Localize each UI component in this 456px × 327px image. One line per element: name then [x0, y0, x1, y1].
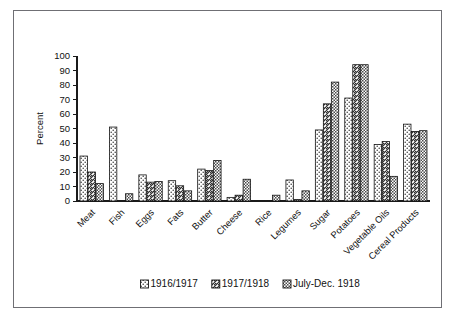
bar: [273, 195, 280, 201]
bar: [353, 65, 360, 201]
bar: [88, 172, 95, 201]
bar: [323, 104, 330, 201]
legend-item[interactable]: July-Dec. 1918: [283, 278, 360, 289]
chart-plot-area: 0102030405060708090100 Percent MeatFishE…: [14, 11, 441, 307]
bar: [125, 194, 132, 201]
legend-item[interactable]: 1916/1917: [141, 278, 199, 289]
x-tick-label: Eggs: [134, 207, 156, 229]
x-tick-label: Fish: [107, 207, 127, 227]
bar: [361, 65, 368, 201]
x-tick-label: Meat: [75, 207, 97, 229]
x-tick-label: Fats: [166, 207, 186, 227]
y-tick-label: 40: [59, 137, 70, 148]
bar: [294, 200, 301, 201]
x-tick-label: Cheese: [214, 207, 244, 237]
bar: [206, 171, 213, 201]
y-tick-label: 80: [59, 79, 70, 90]
chart-legend: 1916/19171917/1918July-Dec. 1918: [141, 278, 361, 289]
bar: [155, 181, 162, 201]
bar: [168, 181, 175, 201]
bar: [235, 195, 242, 201]
x-tick-label: Legumes: [269, 207, 303, 241]
bar: [96, 184, 103, 201]
y-axis: 0102030405060708090100: [54, 50, 77, 206]
bar: [412, 131, 419, 201]
legend-swatch: [283, 280, 291, 288]
bar: [139, 175, 146, 201]
legend-label: 1916/1917: [151, 278, 199, 289]
bar: [404, 124, 411, 201]
y-tick-label: 10: [59, 181, 70, 192]
x-tick-label: Sugar: [308, 207, 333, 232]
bar: [227, 197, 234, 201]
figure-frame: 0102030405060708090100 Percent MeatFishE…: [13, 10, 442, 308]
legend-label: July-Dec. 1918: [293, 278, 360, 289]
y-tick-label: 90: [59, 65, 70, 76]
bar: [176, 186, 183, 201]
x-tick-label: Rice: [253, 207, 273, 227]
x-tick-label: Butter: [190, 207, 215, 232]
y-tick-label: 20: [59, 166, 70, 177]
bar: [390, 176, 397, 201]
y-tick-label: 60: [59, 108, 70, 119]
bar: [243, 179, 250, 201]
bar: [382, 142, 389, 201]
bar: [109, 127, 116, 201]
legend-label: 1917/1918: [222, 278, 270, 289]
bar: [80, 156, 87, 201]
y-axis-label: Percent: [34, 112, 45, 145]
bar: [345, 98, 352, 201]
bar: [302, 191, 309, 201]
x-tick-label: Cereal Products: [366, 207, 420, 261]
bar-chart: 0102030405060708090100 Percent MeatFishE…: [14, 11, 441, 307]
bar: [374, 144, 381, 201]
y-tick-label: 100: [54, 50, 70, 61]
legend-swatch: [212, 280, 220, 288]
legend-swatch: [141, 280, 149, 288]
bars-layer: [80, 65, 427, 201]
bar: [214, 160, 221, 201]
bar: [315, 130, 322, 201]
bar: [147, 182, 154, 201]
bar: [198, 169, 205, 201]
y-axis-title: Percent: [34, 112, 45, 145]
y-tick-label: 50: [59, 123, 70, 134]
y-tick-label: 30: [59, 152, 70, 163]
bar: [420, 131, 427, 201]
bar: [331, 82, 338, 201]
bar: [184, 191, 191, 201]
category-labels: MeatFishEggsFatsButterCheeseRiceLegumesS…: [75, 207, 421, 262]
y-tick-label: 0: [65, 195, 70, 206]
bar: [286, 180, 293, 201]
legend-item[interactable]: 1917/1918: [212, 278, 270, 289]
y-tick-label: 70: [59, 94, 70, 105]
